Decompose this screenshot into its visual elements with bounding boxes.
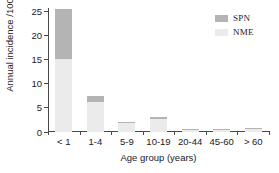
y-axis-tick-label: 15 — [31, 55, 42, 65]
x-axis-tick-label: 10-19 — [143, 137, 175, 147]
y-axis-tick-label: 5 — [37, 103, 42, 113]
bar-slot — [80, 8, 112, 132]
stacked-bar — [87, 96, 104, 132]
legend-swatch — [215, 15, 228, 22]
x-axis-tick-label: < 1 — [48, 137, 80, 147]
legend-swatch — [215, 29, 228, 36]
legend-item: SPN — [215, 14, 254, 23]
x-axis-tick-mark — [174, 131, 175, 135]
x-axis-tick-mark — [237, 131, 238, 135]
bar-slot — [143, 8, 175, 132]
x-axis-tick-label: 20-44 — [174, 137, 206, 147]
y-axis-tick-label: 20 — [31, 31, 42, 41]
x-axis-tick-mark — [80, 131, 81, 135]
x-axis-tick-mark — [111, 131, 112, 135]
y-axis-title: Annual incidence /100 000 — [5, 0, 15, 98]
bar-segment-nme — [150, 119, 167, 132]
x-axis-tick-label: 1-4 — [80, 137, 112, 147]
stacked-bar — [55, 9, 72, 132]
bar-slot — [48, 8, 80, 132]
x-axis-tick-mark — [143, 131, 144, 135]
y-axis-tick-label: 10 — [31, 79, 42, 89]
bar-segment-nme — [55, 59, 72, 132]
legend-label: NME — [233, 28, 254, 37]
y-axis-tick: 5 — [0, 107, 48, 108]
x-axis-tick-labels: < 11-45-910-1920-4445-60> 60 — [48, 137, 269, 147]
x-axis-tick-label: 5-9 — [111, 137, 143, 147]
x-axis-tick-label: 45-60 — [206, 137, 238, 147]
stacked-bar — [150, 117, 167, 132]
bar-slot — [111, 8, 143, 132]
legend-label: SPN — [233, 14, 250, 23]
x-axis-title: Age group (years) — [48, 153, 269, 163]
y-axis-tick: 0 — [0, 132, 48, 133]
x-axis-tick-mark — [48, 131, 49, 135]
bar-segment-spn — [55, 9, 72, 59]
x-axis-tick-label: > 60 — [237, 137, 269, 147]
bar-segment-nme — [87, 102, 104, 132]
legend-item: NME — [215, 28, 254, 37]
y-axis-tick-label: 25 — [31, 7, 42, 17]
chart-figure: 0510152025 Annual incidence /100 000 < 1… — [0, 0, 279, 173]
x-axis-tick-mark — [206, 131, 207, 135]
legend: SPNNME — [215, 14, 254, 42]
bar-slot — [174, 8, 206, 132]
x-axis-tick-mark — [269, 131, 270, 135]
y-axis-tick-label: 0 — [37, 127, 42, 137]
